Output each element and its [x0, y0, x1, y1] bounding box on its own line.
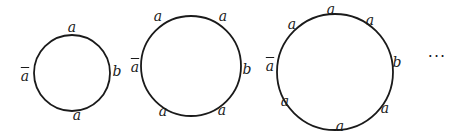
label-a: a [327, 2, 335, 16]
label-a: a [288, 17, 296, 31]
label-a: a [281, 94, 289, 108]
label-a: a [219, 9, 227, 23]
label-a: a [159, 104, 167, 118]
label-b: b [393, 55, 402, 69]
label-a: a [218, 103, 226, 117]
ellipsis-continuation: ··· [428, 47, 446, 66]
label-a: a [366, 13, 374, 27]
label-a: a [68, 20, 76, 34]
label-a: a [336, 119, 344, 133]
label-a-bar: a [131, 60, 139, 74]
label-a: a [73, 108, 81, 122]
label-b: b [113, 64, 122, 78]
label-a: a [381, 101, 389, 115]
circle-1 [34, 35, 110, 111]
label-a-bar: a [21, 69, 29, 83]
label-a-bar: a [266, 59, 274, 73]
label-a: a [154, 9, 162, 23]
label-b: b [243, 62, 252, 76]
circle-2 [141, 16, 241, 116]
